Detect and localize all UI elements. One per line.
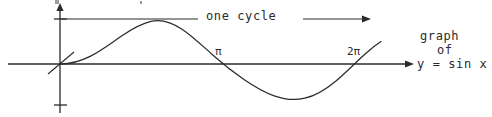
- caption-line-of: of: [437, 44, 453, 56]
- x-axis: [8, 60, 414, 67]
- one-cycle-label: one cycle: [206, 10, 276, 22]
- caption-line-equation: y = sin x: [417, 58, 487, 70]
- sine-curve-path: [60, 21, 381, 100]
- one-cycle-arrowhead-icon: [362, 16, 371, 23]
- sine-graph-figure: one cycle π 2π graph of y = sin x: [0, 0, 492, 117]
- x-tick-label-two-pi: 2π: [347, 46, 360, 57]
- sine-curve: [60, 21, 381, 100]
- caption-line-graph: graph: [420, 30, 459, 42]
- x-axis-arrowhead-icon: [405, 60, 414, 67]
- y-axis-arrowhead-icon: [56, 3, 63, 11]
- x-tick-label-pi: π: [215, 46, 222, 57]
